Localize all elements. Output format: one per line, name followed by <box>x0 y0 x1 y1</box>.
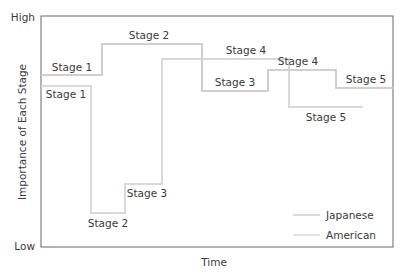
japanese-stage2-label: Stage 2 <box>129 29 169 41</box>
american-stage4-label: Stage 4 <box>226 44 267 56</box>
y-tick-low: Low <box>14 240 35 252</box>
step-chart: High Low Importance of Each Stage Time S… <box>0 0 406 273</box>
legend-japanese-label: Japanese <box>325 209 374 221</box>
japanese-stage5-label: Stage 5 <box>346 73 386 85</box>
american-stage5-label: Stage 5 <box>306 111 346 123</box>
american-stage3-label: Stage 3 <box>127 187 167 199</box>
legend-american-label: American <box>326 229 376 241</box>
american-stage2-label: Stage 2 <box>88 217 128 229</box>
japanese-stage4-label: Stage 4 <box>278 55 319 67</box>
japanese-stage1-label: Stage 1 <box>52 61 92 73</box>
x-axis-title: Time <box>200 256 227 268</box>
y-axis-title: Importance of Each Stage <box>16 64 28 200</box>
american-stage1-label: Stage 1 <box>46 88 86 100</box>
legend: Japanese American <box>293 209 376 241</box>
japanese-stage3-label: Stage 3 <box>215 76 255 88</box>
y-tick-high: High <box>11 11 35 23</box>
